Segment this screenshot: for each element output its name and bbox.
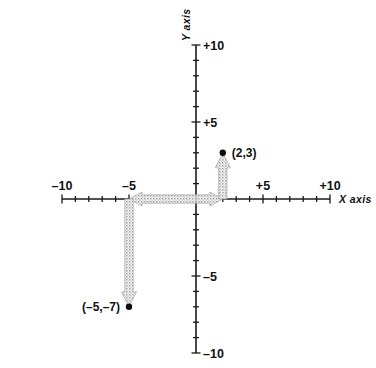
annotation-arrow-vertical	[215, 153, 230, 199]
annotation-arrow-vertical	[122, 199, 137, 307]
y-axis-tick-label: –5	[203, 270, 217, 284]
y-axis-tick-label: +10	[203, 39, 224, 53]
data-point[interactable]	[220, 150, 226, 156]
x-axis-tick-label: +10	[319, 179, 340, 193]
plot-canvas: (2,3)(–5,–7)–10–5+5+10+10+5–5–10X axisY …	[0, 0, 376, 368]
data-point[interactable]	[126, 304, 132, 310]
x-axis-tick-label: –10	[52, 179, 73, 193]
y-axis-tick-label: –10	[203, 347, 224, 361]
data-point-label: (–5,–7)	[82, 300, 120, 314]
x-axis-name: X axis	[338, 193, 372, 205]
data-point-label: (2,3)	[232, 146, 257, 160]
y-axis-tick-label: +5	[203, 116, 217, 130]
x-axis-tick-label: +5	[256, 179, 270, 193]
coordinate-plane-figure: (2,3)(–5,–7)–10–5+5+10+10+5–5–10X axisY …	[0, 0, 376, 368]
annotation-arrow-horizontal	[129, 192, 196, 206]
x-axis-tick-label: –5	[122, 179, 136, 193]
y-axis-name: Y axis	[180, 8, 192, 41]
